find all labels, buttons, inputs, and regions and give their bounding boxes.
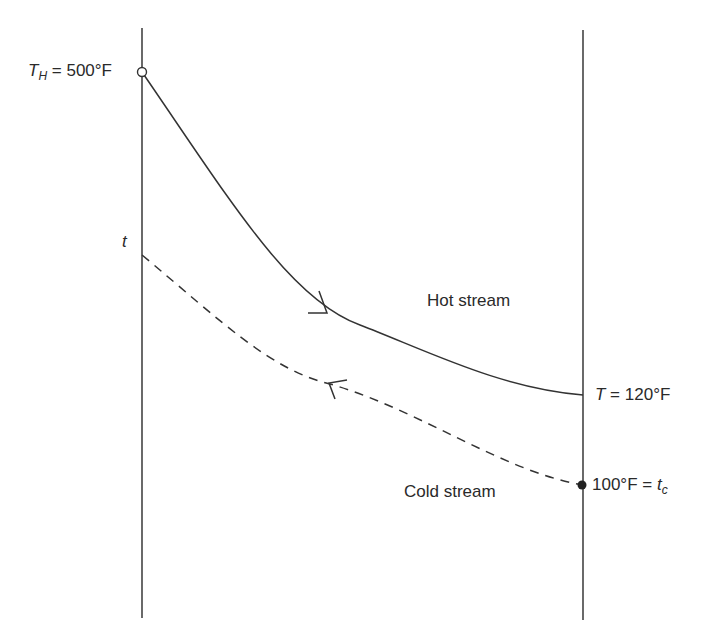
cold-outlet-label: t [122,233,127,250]
diagram-canvas [0,0,712,642]
cold-inlet-subscript: c [662,483,668,497]
hot-stream-label: Hot stream [427,292,510,309]
cold-outlet-symbol: t [122,232,127,251]
hot-inlet-symbol: T [28,61,38,80]
hot-stream-curve [142,72,583,395]
cold-stream-curve [142,255,582,485]
hot-inlet-subscript: H [38,69,47,83]
cold-inlet-label: 100°F = tc [592,476,668,496]
hot-outlet-value: = 120°F [605,385,670,404]
cold-inlet-marker [578,481,587,490]
hot-inlet-marker [138,68,147,77]
hot-outlet-symbol: T [595,385,605,404]
hot-inlet-label: TH = 500°F [28,62,112,82]
hot-inlet-value: = 500°F [47,61,112,80]
cold-stream-arrow-icon [329,380,347,399]
hot-outlet-label: T = 120°F [595,386,670,403]
cold-stream-label: Cold stream [404,483,496,500]
cold-inlet-value: 100°F = [592,475,657,494]
